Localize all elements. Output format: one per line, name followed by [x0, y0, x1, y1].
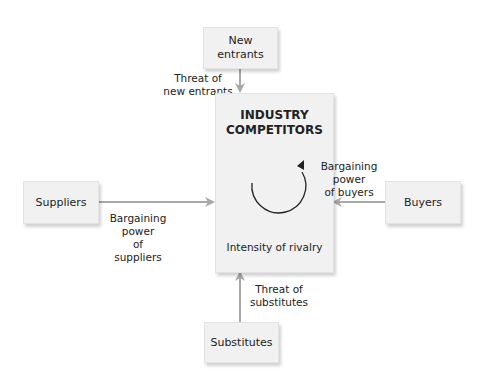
node-suppliers: Suppliers: [23, 181, 99, 224]
node-buyers: Buyers: [385, 181, 461, 224]
node-substitutes: Substitutes: [204, 322, 279, 363]
edge-label-threat-substitutes: Threat of substitutes: [248, 283, 310, 309]
center-subtitle: Intensity of rivalry: [216, 240, 333, 254]
node-new-entrants: New entrants: [203, 27, 278, 69]
node-new-entrants-line1: New: [229, 34, 253, 48]
edge-label-supplier-power: Bargaining power of suppliers: [108, 212, 168, 264]
edge-label-buyer-power: Bargaining power of buyers: [316, 160, 382, 199]
node-new-entrants-line2: entrants: [217, 48, 263, 62]
